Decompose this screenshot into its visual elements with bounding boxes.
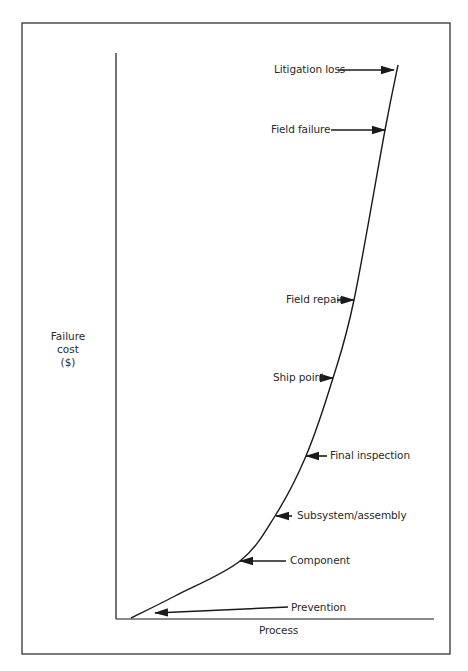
x-axis-label: Process xyxy=(259,624,298,637)
arrow-prevention xyxy=(155,607,288,613)
annotation-ship-point: Ship point xyxy=(273,371,325,384)
annotation-final-inspection: Final inspection xyxy=(330,449,410,462)
annotation-field-repair: Field repair xyxy=(286,293,343,306)
annotation-arrows xyxy=(155,70,394,613)
annotation-component: Component xyxy=(290,554,350,567)
annotation-litigation-loss: Litigation loss xyxy=(274,63,345,76)
annotation-subsystem-assembly: Subsystem/assembly xyxy=(297,509,407,522)
y-axis-label: Failure cost ($) xyxy=(38,330,98,369)
cost-curve xyxy=(131,65,398,618)
y-axis-label-line-3: ($) xyxy=(38,356,98,369)
annotation-field-failure: Field failure xyxy=(271,123,330,136)
annotation-prevention: Prevention xyxy=(291,601,346,614)
y-axis-label-line-2: cost xyxy=(38,343,98,356)
y-axis-label-line-1: Failure xyxy=(38,330,98,343)
